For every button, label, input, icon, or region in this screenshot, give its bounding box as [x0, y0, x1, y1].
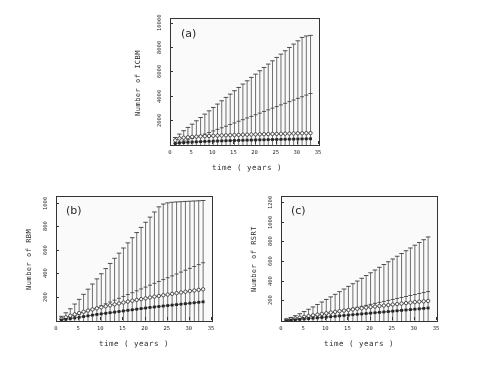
x-tick-mark: [325, 317, 326, 320]
x-tick-mark: [297, 141, 298, 144]
x-tick-label: 35: [203, 325, 219, 331]
y-tick-label: 1000: [42, 190, 48, 216]
x-tick-label: 30: [406, 325, 422, 331]
x-tick-mark: [191, 141, 192, 144]
x-tick-label: 10: [92, 325, 108, 331]
y-tick-mark: [170, 71, 173, 72]
x-tick-label: 5: [70, 325, 86, 331]
x-tick-mark: [370, 317, 371, 320]
x-tick-mark: [281, 317, 282, 320]
x-tick-mark: [56, 317, 57, 320]
y-tick-label: 10000: [156, 10, 162, 36]
x-tick-mark: [145, 317, 146, 320]
x-tick-mark: [189, 317, 190, 320]
y-tick-label: 800: [42, 213, 48, 239]
y-tick-label: 200: [42, 284, 48, 310]
y-tick-mark: [56, 297, 59, 298]
panel-b-y-axis-label: Number of RBM: [25, 206, 33, 312]
x-tick-mark: [212, 141, 213, 144]
x-tick-label: 5: [183, 149, 199, 155]
y-tick-label: 1200: [267, 189, 273, 215]
figure-root: Number of ICBM (a) 200040006000800010000…: [0, 0, 481, 368]
y-tick-mark: [56, 250, 59, 251]
x-tick-mark: [276, 141, 277, 144]
x-tick-mark: [255, 141, 256, 144]
x-tick-label: 0: [48, 325, 64, 331]
x-tick-label: 5: [295, 325, 311, 331]
x-tick-label: 25: [268, 149, 284, 155]
y-tick-mark: [281, 261, 284, 262]
x-tick-label: 10: [317, 325, 333, 331]
x-tick-mark: [233, 141, 234, 144]
x-tick-label: 0: [273, 325, 289, 331]
x-tick-label: 30: [289, 149, 305, 155]
y-tick-label: 400: [42, 260, 48, 286]
x-tick-label: 15: [225, 149, 241, 155]
panel-a-y-axis-label: Number of ICBM: [134, 28, 142, 138]
x-tick-label: 10: [204, 149, 220, 155]
x-tick-mark: [170, 141, 171, 144]
x-tick-mark: [392, 317, 393, 320]
x-tick-mark: [436, 317, 437, 320]
x-tick-mark: [414, 317, 415, 320]
y-tick-mark: [281, 202, 284, 203]
y-tick-mark: [281, 300, 284, 301]
x-tick-label: 15: [114, 325, 130, 331]
panel-b-tag: (b): [66, 204, 82, 217]
x-tick-label: 25: [159, 325, 175, 331]
x-tick-label: 0: [162, 149, 178, 155]
y-tick-mark: [170, 23, 173, 24]
x-tick-mark: [167, 317, 168, 320]
x-tick-mark: [122, 317, 123, 320]
y-tick-mark: [170, 120, 173, 121]
panel-c: Number of RSRT (c) 20040060080010001200 …: [225, 182, 481, 368]
x-tick-label: 20: [137, 325, 153, 331]
x-tick-label: 30: [181, 325, 197, 331]
y-tick-mark: [56, 273, 59, 274]
y-tick-mark: [56, 226, 59, 227]
y-tick-label: 8000: [156, 34, 162, 60]
panel-c-x-axis-label: time ( years ): [299, 339, 419, 348]
x-tick-label: 35: [310, 149, 326, 155]
x-tick-mark: [303, 317, 304, 320]
x-tick-label: 15: [339, 325, 355, 331]
x-tick-label: 35: [428, 325, 444, 331]
x-tick-mark: [318, 141, 319, 144]
panel-a-tag: (a): [181, 27, 196, 40]
y-tick-label: 2000: [156, 107, 162, 133]
x-tick-label: 20: [247, 149, 263, 155]
x-tick-mark: [100, 317, 101, 320]
y-tick-mark: [170, 96, 173, 97]
x-tick-mark: [211, 317, 212, 320]
y-tick-label: 600: [42, 237, 48, 263]
x-tick-label: 20: [362, 325, 378, 331]
y-tick-mark: [281, 241, 284, 242]
panel-a-x-axis-label: time ( years ): [188, 163, 306, 172]
panel-a: Number of ICBM (a) 200040006000800010000…: [0, 0, 400, 185]
panel-b: Number of RBM (b) 2004006008001000 05101…: [0, 182, 240, 368]
y-tick-mark: [170, 47, 173, 48]
y-tick-mark: [281, 222, 284, 223]
panel-c-tag: (c): [291, 204, 306, 217]
y-tick-label: 6000: [156, 58, 162, 84]
x-tick-mark: [78, 317, 79, 320]
y-tick-mark: [56, 203, 59, 204]
x-tick-label: 25: [384, 325, 400, 331]
x-tick-mark: [347, 317, 348, 320]
panel-b-x-axis-label: time ( years ): [74, 339, 194, 348]
panel-c-y-axis-label: Number of RSRT: [250, 206, 258, 312]
y-tick-label: 4000: [156, 83, 162, 109]
y-tick-mark: [281, 281, 284, 282]
